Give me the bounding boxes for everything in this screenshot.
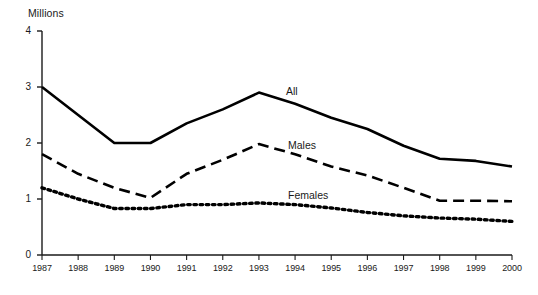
x-axis-tick-label: 2000 — [492, 263, 532, 273]
x-axis-tick-label: 1989 — [94, 263, 134, 273]
x-axis-tick-label: 1997 — [384, 263, 424, 273]
y-axis-tick-label: 3 — [15, 81, 31, 92]
chart-plot-area — [0, 0, 538, 295]
x-axis-tick-label: 1996 — [347, 263, 387, 273]
x-axis-tick-label: 1998 — [420, 263, 460, 273]
x-axis-tick-label: 1994 — [275, 263, 315, 273]
x-axis-tick-label: 1995 — [311, 263, 351, 273]
x-axis-tick-label: 1990 — [130, 263, 170, 273]
line-chart: Millions 01234 1987198819891990199119921… — [0, 0, 538, 295]
x-axis-tick-label: 1999 — [456, 263, 496, 273]
series-line-males — [42, 144, 512, 201]
x-axis-tick-label: 1991 — [167, 263, 207, 273]
x-axis-tick-label: 1987 — [22, 263, 62, 273]
x-axis-ticks — [42, 255, 512, 260]
y-axis-ticks — [37, 31, 42, 255]
series-label-males: Males — [288, 139, 316, 151]
x-axis-tick-label: 1993 — [239, 263, 279, 273]
y-axis-tick-label: 4 — [15, 25, 31, 36]
y-axis-tick-label: 2 — [15, 137, 31, 148]
series-label-all: All — [286, 85, 298, 97]
x-axis-tick-label: 1992 — [203, 263, 243, 273]
series-label-females: Females — [288, 189, 328, 201]
series-line-all — [42, 87, 512, 167]
chart-series-lines — [42, 87, 512, 221]
y-axis-tick-label: 0 — [15, 249, 31, 260]
y-axis-tick-label: 1 — [15, 193, 31, 204]
x-axis-tick-label: 1988 — [58, 263, 98, 273]
series-line-females — [42, 188, 512, 222]
